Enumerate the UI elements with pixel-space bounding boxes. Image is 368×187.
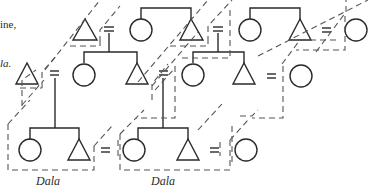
- marriage-equals-icon: [50, 71, 59, 75]
- kinship-diagram: ine, la.: [0, 0, 368, 187]
- female-circle-icon: [290, 65, 312, 87]
- household-boundary: [316, 0, 346, 52]
- male-triangle-icon: [177, 139, 199, 160]
- sibling-line: [250, 8, 300, 19]
- male-triangle-icon: [233, 63, 255, 84]
- household-boundary: [70, 42, 100, 46]
- female-circle-icon: [235, 139, 257, 161]
- household-boundary: [100, 6, 120, 42]
- sibling-line: [141, 8, 191, 19]
- marriage-equals-icon: [267, 74, 276, 78]
- male-triangle-icon: [68, 139, 90, 160]
- female-circle-icon: [130, 19, 152, 41]
- household-boundary: [94, 126, 112, 146]
- household-boundary: [230, 120, 248, 140]
- label-dala-right: Dala: [151, 175, 175, 187]
- pedigree-chart: [0, 0, 368, 187]
- marriage-equals-icon: [213, 27, 223, 31]
- sibling-line: [138, 128, 188, 140]
- female-circle-icon: [123, 139, 145, 161]
- marriage-equals-icon: [210, 148, 219, 152]
- marriage-equals-icon: [104, 27, 114, 31]
- female-circle-icon: [19, 139, 41, 161]
- household-boundary: [208, 0, 232, 42]
- marriage-equals-icon: [159, 71, 168, 75]
- sibling-line: [193, 52, 244, 63]
- label-dala-left: Dala: [36, 175, 60, 187]
- household-boundary: [240, 110, 258, 116]
- female-circle-icon: [73, 64, 95, 86]
- sibling-line: [30, 128, 79, 140]
- male-triangle-icon: [180, 19, 203, 40]
- household-boundary: [282, 40, 340, 64]
- household-boundary: [8, 100, 30, 124]
- male-triangle-icon: [289, 19, 311, 40]
- marriage-equals-icon: [322, 28, 331, 32]
- household-boundary: [198, 104, 222, 130]
- marriage-equals-icon: [101, 148, 110, 152]
- household-boundary: [120, 110, 144, 134]
- household-boundary: [138, 0, 208, 82]
- female-circle-icon: [239, 19, 261, 41]
- household-boundary: [170, 42, 208, 46]
- sibling-line: [84, 52, 137, 63]
- female-circle-icon: [182, 64, 204, 86]
- male-triangle-icon: [16, 63, 38, 84]
- household-boundary: [8, 124, 94, 170]
- female-circle-icon: [345, 19, 367, 41]
- household-boundary: [180, 10, 230, 58]
